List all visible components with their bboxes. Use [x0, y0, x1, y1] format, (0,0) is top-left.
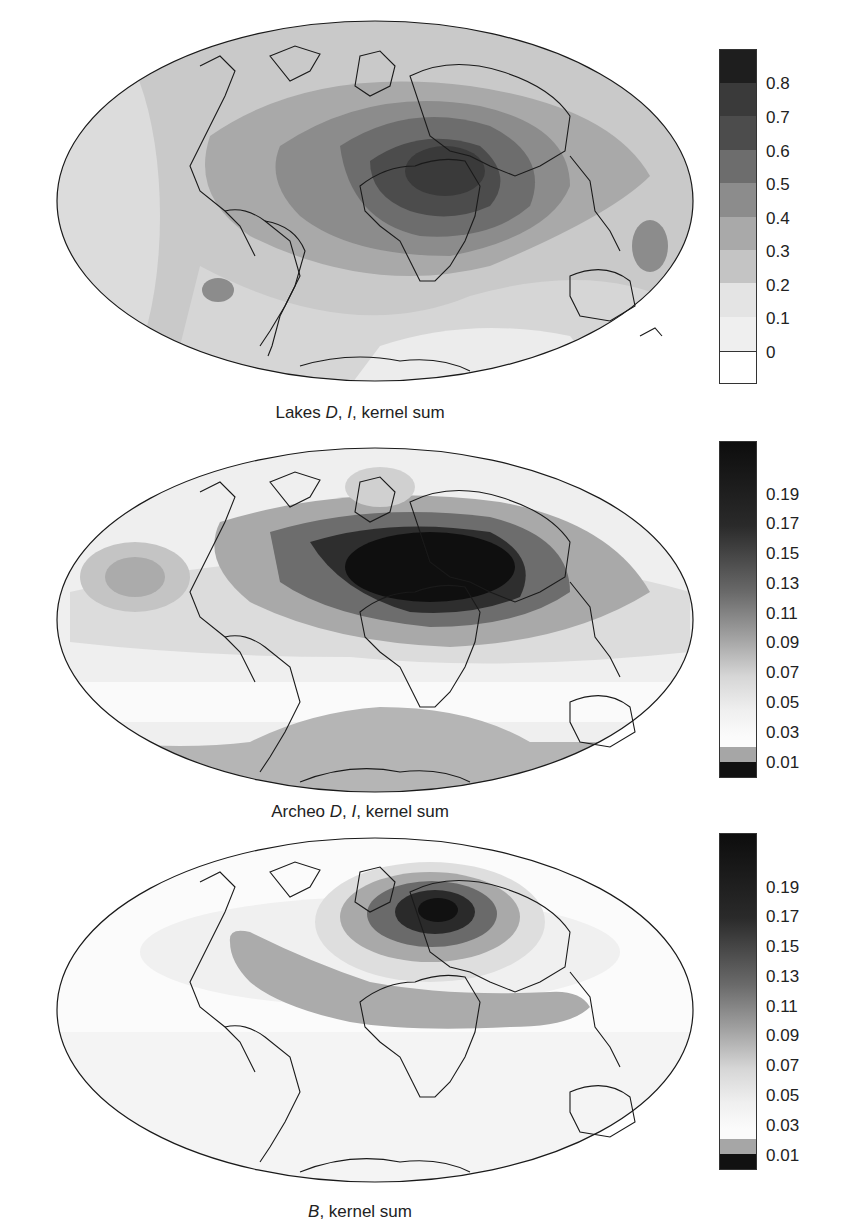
world-map-b — [50, 832, 700, 1202]
tick-label: 0.03 — [766, 1117, 799, 1134]
caption-archeo: Archeo D, I, kernel sum — [0, 802, 720, 822]
tick-label: 0.07 — [766, 664, 799, 681]
tick-label: 0.07 — [766, 1057, 799, 1074]
tick-label: 0.2 — [766, 277, 790, 294]
tick-label: 0.05 — [766, 694, 799, 711]
tick-label: 0.7 — [766, 109, 790, 126]
tick-label: 0.19 — [766, 486, 799, 503]
tick-label: 0.5 — [766, 176, 790, 193]
map-archeo — [50, 442, 700, 812]
colorbar-b — [719, 833, 757, 1170]
tick-label: 0.03 — [766, 724, 799, 741]
world-map-archeo — [50, 442, 700, 812]
tick-label: 0.09 — [766, 634, 799, 651]
tick-label: 0.8 — [766, 75, 790, 92]
tick-label: 0.13 — [766, 575, 799, 592]
tick-label: 0.09 — [766, 1027, 799, 1044]
tick-label: 0.4 — [766, 210, 790, 227]
tick-label: 0.1 — [766, 310, 790, 327]
colorbar-lakes — [719, 49, 757, 384]
caption-lakes: Lakes D, I, kernel sum — [0, 403, 720, 423]
tick-label: 0.19 — [766, 879, 799, 896]
panel-archeo: 0.19 0.17 0.15 0.13 0.11 0.09 0.07 0.05 … — [0, 430, 846, 830]
panel-lakes: 0.8 0.7 0.6 0.5 0.4 0.3 0.2 0.1 0 Lakes … — [0, 0, 846, 430]
tick-label: 0.01 — [766, 754, 799, 771]
tick-label: 0.13 — [766, 968, 799, 985]
tick-label: 0.6 — [766, 143, 790, 160]
tick-label: 0.17 — [766, 908, 799, 925]
map-b — [50, 832, 700, 1202]
world-map-lakes — [50, 16, 700, 386]
tick-label: 0.11 — [766, 605, 798, 622]
tick-label: 0.01 — [766, 1147, 799, 1164]
caption-b: B, kernel sum — [0, 1202, 720, 1222]
tick-label: 0 — [766, 344, 775, 361]
map-lakes — [50, 16, 700, 386]
tick-label: 0.11 — [766, 998, 798, 1015]
tick-label: 0.15 — [766, 938, 799, 955]
tick-label: 0.05 — [766, 1087, 799, 1104]
tick-label: 0.17 — [766, 515, 799, 532]
tick-label: 0.15 — [766, 545, 799, 562]
colorbar-archeo — [719, 441, 757, 778]
tick-label: 0.3 — [766, 243, 790, 260]
panel-b: 0.19 0.17 0.15 0.13 0.11 0.09 0.07 0.05 … — [0, 830, 846, 1231]
